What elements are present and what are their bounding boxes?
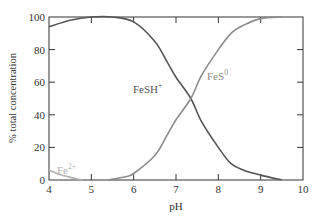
- y-tick-label: 80: [34, 44, 46, 56]
- x-tick-label: 9: [258, 183, 264, 195]
- series-lines: [49, 16, 282, 180]
- series-label-fes0: FeS0: [207, 68, 228, 82]
- series-label-fe2: Fe2+: [57, 162, 76, 176]
- y-tick-label: 100: [29, 11, 46, 23]
- chart-svg: 45678910 020406080100 FeSH+FeS0Fe2+ pH %…: [0, 0, 320, 220]
- x-axis-label: pH: [169, 200, 183, 212]
- x-tick-label: 10: [298, 183, 310, 195]
- plot-frame: [49, 17, 303, 180]
- x-tick-label: 7: [173, 183, 179, 195]
- series-line-fesh: [49, 16, 282, 180]
- series-line-fes0: [108, 17, 282, 180]
- x-tick-label: 8: [216, 183, 222, 195]
- x-tick-label: 5: [89, 183, 95, 195]
- y-tick-label: 0: [40, 174, 46, 186]
- x-tick-label: 6: [131, 183, 137, 195]
- x-tick-label: 4: [46, 183, 52, 195]
- y-axis-label: % total concentration: [7, 52, 18, 143]
- y-tick-label: 60: [34, 76, 46, 88]
- y-axis-ticks: 020406080100: [29, 11, 304, 186]
- y-tick-label: 20: [34, 141, 46, 153]
- y-tick-label: 40: [34, 109, 46, 121]
- x-axis-ticks: 45678910: [46, 17, 309, 195]
- series-label-fesh: FeSH+: [133, 81, 162, 95]
